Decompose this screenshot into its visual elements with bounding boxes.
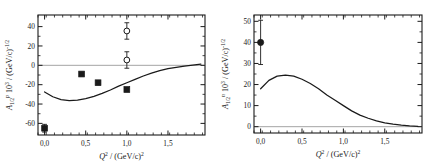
y-tick-label: 0 — [247, 122, 251, 131]
x-tick-label: 1,0 — [122, 139, 132, 148]
y-tick-label: 10 — [244, 101, 252, 110]
y-tick-label: 20 — [28, 42, 36, 51]
neutron-panel: 0,00,51,01,550403020100A1/2n 103 / (GeV/… — [216, 0, 433, 167]
x-tick-label: 0,5 — [297, 137, 307, 146]
y-axis-title: A1/2p 103 / (GeV/c)-1/2 — [4, 40, 15, 111]
proton-panel: 0,00,51,01,540200-20-40-60A1/2p 103 / (G… — [0, 0, 216, 167]
y-tick-label: 30 — [244, 59, 252, 68]
y-tick-label: 40 — [244, 38, 252, 47]
neutron-plot-svg: 0,00,51,01,550403020100A1/2n 103 / (GeV/… — [216, 0, 433, 167]
data-point-filled-square — [42, 125, 48, 131]
data-point-filled-square — [95, 80, 101, 86]
x-tick-label: 0,0 — [40, 139, 50, 148]
data-point-filled-square — [79, 71, 85, 77]
y-tick-label: 40 — [28, 22, 36, 31]
x-axis-title: Q2 / (GeV/c)2 — [99, 151, 144, 161]
proton-plot-svg: 0,00,51,01,540200-20-40-60A1/2p 103 / (G… — [0, 0, 216, 167]
x-tick-label: 0,5 — [81, 139, 91, 148]
figure-container: 0,00,51,01,540200-20-40-60A1/2p 103 / (G… — [0, 0, 433, 167]
y-axis-title-text: A1/2p 103 / (GeV/c)-1/2 — [4, 40, 15, 111]
model-curve — [261, 75, 418, 126]
y-tick-label: -60 — [25, 119, 35, 128]
y-tick-label: 50 — [244, 17, 252, 26]
x-tick-label: 1,0 — [339, 137, 349, 146]
data-point-open-circle — [124, 57, 130, 63]
x-tick-label: 0,0 — [256, 137, 266, 146]
x-axis-title: Q2 / (GeV/c)2 — [316, 149, 361, 159]
x-tick-label: 1,5 — [163, 139, 173, 148]
data-point-open-circle — [124, 28, 130, 34]
y-tick-label: -20 — [25, 80, 35, 89]
x-tick-label: 1,5 — [380, 137, 390, 146]
y-tick-label: 0 — [31, 61, 35, 70]
y-axis-title: A1/2n 103 / (GeV/c)-1/2 — [220, 39, 231, 110]
y-tick-label: -40 — [25, 100, 35, 109]
data-point-filled-square — [124, 87, 130, 93]
model-curve — [45, 64, 201, 100]
y-axis-title-text: A1/2n 103 / (GeV/c)-1/2 — [220, 39, 231, 110]
plot-frame — [254, 15, 422, 133]
data-point-filled-circle — [258, 39, 264, 45]
y-tick-label: 20 — [244, 80, 252, 89]
plot-frame — [38, 15, 205, 135]
